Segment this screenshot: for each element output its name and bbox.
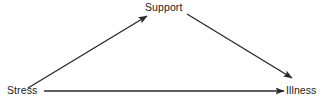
path-diagram: Stress Support Illness (0, 0, 323, 104)
node-label-illness: Illness (286, 84, 316, 96)
node-label-support: Support (145, 1, 182, 13)
edge-support-to-illness (187, 14, 292, 78)
diagram-canvas (0, 0, 323, 104)
node-label-stress: Stress (7, 84, 37, 96)
edge-stress-to-support (28, 16, 147, 88)
